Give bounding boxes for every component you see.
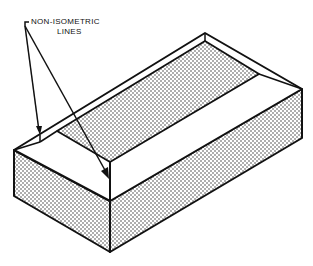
annotation-line2: LINES bbox=[57, 27, 82, 37]
label-bracket bbox=[25, 22, 29, 26]
isometric-block-diagram bbox=[0, 0, 313, 266]
leader-arrow-left bbox=[25, 26, 39, 131]
annotation-line1: NON-ISOMETRIC bbox=[31, 17, 100, 27]
